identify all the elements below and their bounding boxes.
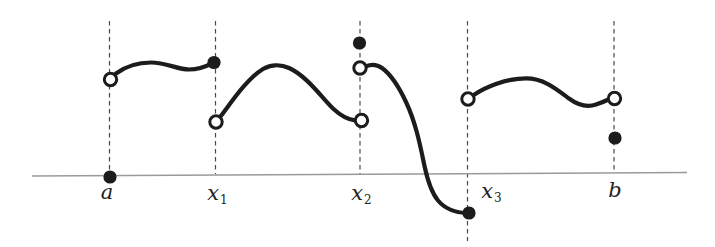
curve-piece-x2-to-x3 [366, 65, 468, 213]
filled-point-marker-x3-value [462, 206, 475, 219]
figure-discontinuous-function: ax1x2x3b [0, 0, 715, 247]
open-endpoint-marker-x2-lower [355, 114, 367, 126]
filled-point-marker-a-on-axis [103, 170, 116, 183]
open-endpoint-marker-a [104, 73, 116, 85]
dashed-guides-layer [110, 21, 615, 241]
open-endpoint-marker-x2-upper [354, 62, 366, 74]
curve-piece-x3-to-b [475, 78, 609, 105]
figure-canvas [0, 0, 715, 247]
open-endpoint-marker-x1 [210, 116, 222, 128]
open-endpoint-marker-b [608, 92, 620, 104]
curve-piece-a-to-x1 [116, 63, 213, 74]
filled-point-marker-b-value [608, 131, 621, 144]
function-curves-layer [116, 63, 609, 214]
filled-point-marker-x2-value [353, 36, 366, 49]
curve-piece-x1-to-x2 [221, 65, 356, 120]
filled-point-marker-x1-value [207, 56, 220, 69]
endpoint-markers-layer [103, 36, 621, 219]
open-endpoint-marker-x3 [462, 93, 474, 105]
